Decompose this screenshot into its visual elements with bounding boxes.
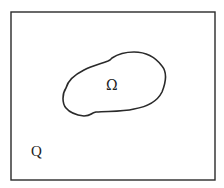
omega-label: Ω — [106, 78, 118, 92]
diagram-canvas — [0, 0, 224, 188]
q-label: Q — [31, 144, 42, 159]
domain-diagram: Ω Q — [0, 0, 224, 188]
